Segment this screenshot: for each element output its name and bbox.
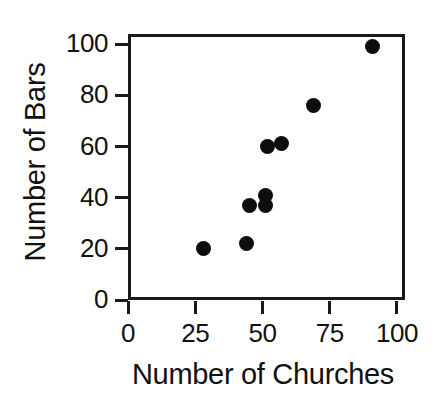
x-tick bbox=[261, 301, 264, 314]
y-tick bbox=[115, 43, 128, 46]
plot-data-area bbox=[128, 34, 405, 300]
data-point bbox=[365, 39, 380, 54]
x-axis-title: Number of Churches bbox=[98, 358, 428, 391]
data-point bbox=[242, 198, 257, 213]
x-tick-label: 25 bbox=[160, 318, 230, 349]
y-tick bbox=[115, 145, 128, 148]
y-tick bbox=[115, 196, 128, 199]
data-point bbox=[306, 98, 321, 113]
y-tick-label: 100 bbox=[46, 28, 108, 59]
y-tick-label: 80 bbox=[46, 79, 108, 110]
data-point bbox=[239, 236, 254, 251]
y-tick bbox=[115, 247, 128, 250]
data-point bbox=[260, 139, 275, 154]
x-tick-label: 75 bbox=[295, 318, 365, 349]
y-tick bbox=[115, 94, 128, 97]
data-point bbox=[196, 241, 211, 256]
y-tick-label: 60 bbox=[46, 131, 108, 162]
x-tick-label: 0 bbox=[93, 318, 163, 349]
y-tick-label: 40 bbox=[46, 182, 108, 213]
scatter-plot-figure: Number of Bars Number of Churches 020406… bbox=[0, 0, 438, 417]
x-tick bbox=[328, 301, 331, 314]
x-tick bbox=[127, 301, 130, 314]
y-tick-label: 0 bbox=[46, 284, 108, 315]
x-tick bbox=[395, 301, 398, 314]
data-point bbox=[274, 136, 289, 151]
x-tick bbox=[194, 301, 197, 314]
x-tick-label: 100 bbox=[362, 318, 432, 349]
y-tick-label: 20 bbox=[46, 233, 108, 264]
x-tick-label: 50 bbox=[227, 318, 297, 349]
data-point bbox=[258, 188, 273, 203]
